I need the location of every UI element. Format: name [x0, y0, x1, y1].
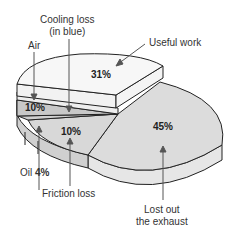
exhaust-label-line2: the exhaust	[136, 216, 188, 228]
cooling-loss-label-line2: (in blue)	[40, 26, 94, 38]
cooling-loss-label-line1: Cooling loss	[40, 14, 94, 26]
pie-chart-graphic	[0, 0, 237, 236]
friction-loss-label: Friction loss	[42, 188, 95, 200]
exhaust-label-line1: Lost out	[136, 204, 188, 216]
cooling-loss-percent: 10%	[25, 102, 45, 113]
oil-percent: 4%	[35, 167, 49, 178]
useful-work-label: Useful work	[149, 37, 201, 49]
oil-label: Oil 4%	[20, 167, 49, 179]
friction-loss-percent: 10%	[61, 126, 81, 137]
air-label: Air	[28, 40, 40, 52]
oil-label-text: Oil	[20, 167, 32, 178]
exhaust-percent: 45%	[153, 121, 173, 132]
exhaust-label: Lost out the exhaust	[136, 204, 188, 228]
cooling-loss-label: Cooling loss (in blue)	[40, 14, 94, 38]
useful-work-percent: 31%	[91, 69, 111, 80]
